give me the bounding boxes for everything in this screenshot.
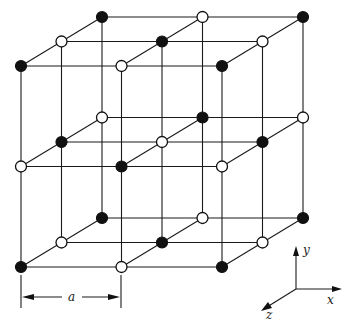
lattice-edge-z — [62, 218, 103, 243]
arrow-left-icon — [22, 294, 34, 300]
open-ion-icon — [56, 237, 67, 248]
open-ion-icon — [56, 36, 67, 47]
lattice-edge-z — [263, 17, 304, 42]
open-ion-icon — [257, 36, 268, 47]
open-ion-icon — [197, 12, 208, 23]
nacl-lattice-diagram: a y x z — [0, 0, 350, 327]
lattice-edge-z — [122, 42, 163, 67]
filled-ion-icon — [16, 61, 27, 72]
x-axis-label: x — [327, 293, 334, 307]
lattice-edge-z — [222, 243, 263, 268]
y-axis-arrow-icon — [293, 246, 299, 256]
y-axis-label: y — [302, 243, 310, 257]
open-ion-icon — [97, 112, 108, 123]
lattice-edge-z — [162, 218, 203, 243]
dimension-label-a: a — [68, 290, 75, 304]
filled-ion-icon — [217, 61, 228, 72]
lattice-edge-z — [162, 17, 203, 42]
lattice-edge-z — [222, 142, 263, 167]
lattice-edge-z — [263, 218, 304, 243]
filled-ion-icon — [16, 262, 27, 273]
open-ion-icon — [217, 161, 228, 172]
axis-triad: y x z — [261, 243, 342, 322]
filled-ion-icon — [157, 36, 168, 47]
open-ion-icon — [116, 61, 127, 72]
z-axis-line — [267, 289, 296, 307]
filled-ion-icon — [257, 137, 268, 148]
arrow-right-icon — [108, 294, 120, 300]
filled-ion-icon — [298, 213, 309, 224]
filled-ion-icon — [56, 137, 67, 148]
filled-ion-icon — [116, 161, 127, 172]
lattice-edge-z — [162, 118, 203, 143]
filled-ion-icon — [97, 12, 108, 23]
filled-ion-icon — [157, 237, 168, 248]
filled-ion-icon — [197, 112, 208, 123]
lattice-edge-z — [21, 243, 62, 268]
filled-ion-icon — [298, 12, 309, 23]
lattice-edge-z — [62, 17, 103, 42]
z-axis-label: z — [265, 308, 273, 322]
open-ion-icon — [257, 237, 268, 248]
open-ion-icon — [298, 112, 309, 123]
lattice-edge-z — [21, 142, 62, 167]
x-axis-arrow-icon — [332, 286, 342, 292]
lattice-edge-z — [122, 243, 163, 268]
lattice-edge-z — [222, 42, 263, 67]
filled-ion-icon — [97, 213, 108, 224]
open-ion-icon — [16, 161, 27, 172]
lattice-edge-z — [21, 42, 62, 67]
open-ion-icon — [197, 213, 208, 224]
dimension-marker: a — [21, 275, 121, 308]
lattice-edge-z — [263, 118, 304, 143]
lattice-edge-z — [62, 118, 103, 143]
lattice-edge-z — [122, 142, 163, 167]
filled-ion-icon — [217, 262, 228, 273]
open-ion-icon — [157, 137, 168, 148]
open-ion-icon — [116, 262, 127, 273]
